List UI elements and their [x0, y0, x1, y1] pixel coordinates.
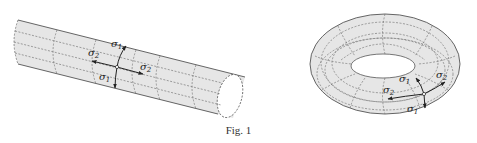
cylinder-body	[14, 20, 245, 118]
torus-stress-point	[422, 92, 425, 95]
figure: σ1 σ2 σ2 σ1	[0, 0, 477, 143]
cylinder-stress-point	[115, 65, 118, 68]
torus: σ1 σ2 σ2 σ1	[310, 14, 460, 116]
cylinder: σ1 σ2 σ2 σ1	[14, 20, 247, 120]
figure-caption: Fig. 1	[0, 124, 477, 136]
